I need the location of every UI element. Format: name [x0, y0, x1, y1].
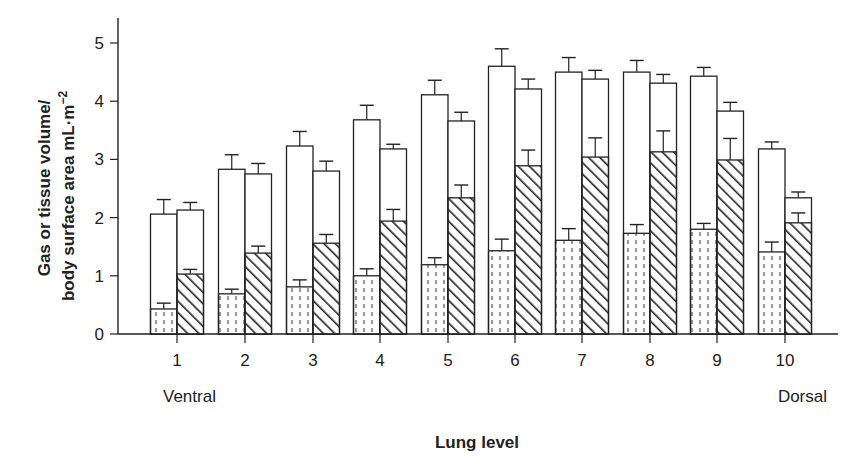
right-bar-hatched-segment — [380, 221, 407, 334]
x-annotation-ventral: Ventral — [163, 387, 216, 406]
y-axis-title-line1: Gas or tissue volume/ — [35, 99, 54, 276]
left-bar-dotted-segment — [219, 294, 246, 334]
bar-group-2 — [219, 155, 272, 334]
x-tick-label: 9 — [712, 351, 721, 370]
x-tick-label: 2 — [240, 351, 249, 370]
x-tick-label: 5 — [443, 351, 452, 370]
bar-chart: 01234512345678910 Ventral Dorsal Lung le… — [0, 0, 856, 466]
right-bar-hatched-segment — [177, 274, 204, 334]
bar-group-4 — [354, 105, 407, 334]
left-bar-dotted-segment — [151, 309, 178, 334]
right-bar-hatched-segment — [448, 198, 475, 334]
bar-group-5 — [422, 80, 475, 334]
right-bar-hatched-segment — [582, 157, 609, 334]
bar-group-1 — [151, 200, 204, 334]
bar-group-8 — [624, 60, 677, 334]
y-axis-title-line2: body surface area mL·m−2 — [56, 91, 78, 302]
right-bar-hatched-segment — [245, 253, 272, 334]
bar-group-7 — [556, 58, 609, 334]
bar-group-9 — [691, 67, 744, 334]
y-tick-label: 5 — [95, 34, 104, 53]
left-bar-dotted-segment — [287, 287, 314, 334]
x-tick-label: 4 — [375, 351, 384, 370]
bar-group-6 — [489, 49, 542, 334]
y-tick-label: 3 — [95, 150, 104, 169]
left-bar-dotted-segment — [422, 265, 449, 334]
right-bar-hatched-segment — [313, 243, 340, 334]
right-bar-hatched-segment — [717, 160, 744, 334]
bar-group-3 — [287, 131, 340, 334]
left-bar-dotted-segment — [691, 229, 718, 334]
x-tick-label: 1 — [172, 351, 181, 370]
right-bar-hatched-segment — [785, 223, 812, 334]
left-bar-dotted-segment — [489, 251, 516, 334]
x-axis-title: Lung level — [435, 433, 519, 452]
x-tick-label: 8 — [645, 351, 654, 370]
left-bar-dotted-segment — [354, 276, 381, 334]
y-tick-label: 0 — [95, 325, 104, 344]
left-bar-dotted-segment — [556, 240, 583, 334]
bar-group-10 — [759, 142, 812, 334]
right-bar-hatched-segment — [515, 166, 542, 334]
x-annotation-dorsal: Dorsal — [778, 387, 827, 406]
y-tick-label: 2 — [95, 209, 104, 228]
y-axis-title-sup: −2 — [56, 91, 70, 105]
y-axis-title-text: body surface area mL·m — [59, 105, 78, 302]
left-bar-dotted-segment — [624, 233, 651, 334]
bars — [151, 49, 812, 334]
x-tick-label: 3 — [308, 351, 317, 370]
y-tick-label: 4 — [95, 92, 104, 111]
x-tick-label: 6 — [510, 351, 519, 370]
x-tick-label: 7 — [577, 351, 586, 370]
right-bar-hatched-segment — [650, 152, 677, 334]
left-bar-dotted-segment — [759, 252, 786, 334]
x-tick-label: 10 — [776, 351, 795, 370]
y-tick-label: 1 — [95, 267, 104, 286]
